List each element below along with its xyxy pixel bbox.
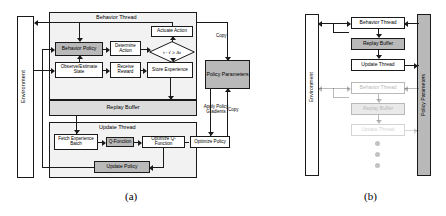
node-q-function: Q-Function [106, 137, 134, 147]
arrowhead-copy-top [225, 57, 231, 61]
arrowhead-diamond-to-actuate [170, 36, 176, 40]
b-arrow-ut1-pp [414, 63, 418, 69]
b-replay-buffer-2: Replay Buffer [351, 103, 405, 115]
arrowhead-qfunction-to-optimizeq [138, 140, 142, 146]
b-env-out-1 [319, 23, 349, 24]
figure-root: Environment Behavior Thread Behavior Pol… [0, 0, 446, 216]
environment-label-b: Environment [308, 72, 314, 102]
b-arrow-env-in-1 [318, 21, 322, 27]
node-behavior-policy: Behavior Policy [55, 42, 103, 56]
node-determine-action: Determine Action [110, 41, 141, 56]
arrowhead-copy-mid [225, 88, 231, 92]
arrowhead-observe-to-policy [77, 55, 83, 59]
b-update-thread-1: Update Thread [351, 59, 405, 71]
arrowhead-determine-to-diamond [147, 47, 151, 53]
b-arrow-rb1-ut1 [376, 55, 382, 59]
node-store-experience: Store Experience [147, 62, 193, 78]
ellipsis-dot-1 [375, 141, 380, 146]
b-env-in-2 [333, 97, 349, 98]
b-env-riser-2 [333, 88, 334, 97]
arrowhead-reward-to-store [143, 68, 147, 74]
arrowhead-top-branch-down [77, 38, 83, 42]
b-arrow-pp-bt2 [404, 86, 408, 92]
node-receive-reward: Receive Reward [110, 62, 141, 78]
node-policy-parameters-b: Policy Parameters [417, 14, 431, 176]
node-observe-estimate-state: Observe/Estimate State [55, 62, 103, 78]
caption-panel-b: (b) [364, 190, 377, 202]
arrowhead-actuate-to-env [34, 20, 38, 26]
edge-copy-top-h [197, 22, 228, 23]
behavior-thread-title: Behavior Thread [96, 14, 137, 20]
arrowhead-replay-to-fetch [74, 130, 80, 134]
arrowhead-into-behavior-policy [51, 47, 55, 53]
b-arrow-env-in-2 [318, 86, 322, 92]
b-arrow-rb2-ut2 [376, 120, 382, 124]
edge-apply-gradients-v [210, 89, 211, 136]
edge-copy-mid-v [227, 89, 228, 136]
edge-updatepolicy-out [42, 167, 94, 168]
update-thread-title: Update Thread [99, 124, 136, 130]
b-replay-buffer-1: Replay Buffer [351, 38, 405, 50]
edge-label-copy-top: Copy [216, 33, 227, 38]
arrowhead-fetch-to-qfunction [102, 140, 106, 146]
node-fetch-experience-batch: Fetch Experience Batch [54, 134, 98, 150]
arrowhead-env-to-observe [51, 68, 55, 74]
node-policy-parameters-a: Policy Parameters [205, 60, 250, 89]
arrowhead-store-to-replay [168, 96, 174, 100]
arrowhead-observe-to-reward [106, 68, 110, 74]
node-update-policy: Update Policy [94, 161, 150, 173]
caption-panel-a: (a) [125, 190, 137, 202]
b-arrow-ut2-pp [414, 128, 418, 134]
arrowhead-to-update-policy [149, 165, 153, 171]
edge-updatepolicy-riser [42, 49, 43, 167]
b-env-out-2 [319, 88, 349, 89]
b-update-thread-2: Update Thread [351, 124, 405, 136]
b-behavior-thread-2: Behavior Thread [351, 82, 405, 94]
b-behavior-thread-1: Behavior Thread [351, 17, 405, 29]
node-optimize-q-function: Optimize Q-Function [142, 136, 185, 148]
b-arrow-to-bt1 [347, 21, 351, 27]
environment-label-a: Environment [20, 70, 26, 103]
b-env-in-1 [333, 32, 349, 33]
node-optimize-policy: Optimize Policy [190, 136, 230, 148]
edge-diamond-to-store [172, 62, 173, 63]
arrowhead-policy-to-determine [106, 47, 110, 53]
b-arrow-bt2-rb2 [376, 99, 382, 103]
arrowhead-diamond-to-store [170, 58, 176, 62]
edge-copy-top-v [227, 22, 228, 60]
edge-optimizeq-down [163, 148, 164, 167]
b-arrow-pp-bt1 [404, 21, 408, 27]
b-arrow-bt1-rb1 [376, 34, 382, 38]
arrowhead-apply-gradients [208, 132, 214, 136]
b-arrow-to-bt2 [347, 86, 351, 92]
edge-optimizeq-to-optimizepolicy [185, 142, 189, 143]
edge-actuate-to-env-h [35, 22, 173, 23]
ellipsis-dot-3 [375, 163, 380, 168]
b-env-riser-1 [333, 23, 334, 32]
ellipsis-dot-2 [375, 152, 380, 157]
node-replay-buffer: Replay Buffer [49, 100, 197, 116]
